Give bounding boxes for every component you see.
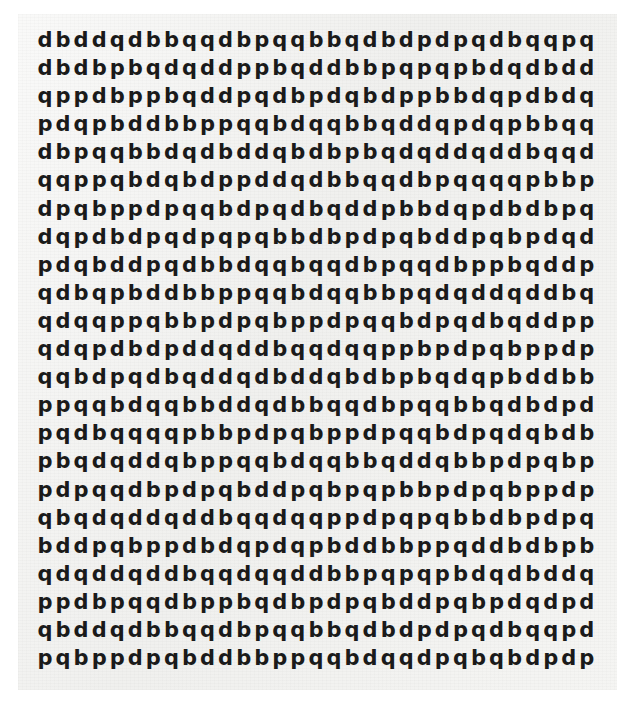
- letter-cell: d: [199, 83, 217, 109]
- letter-cell: b: [162, 83, 180, 109]
- letter-cell: d: [542, 561, 560, 587]
- letter-cell: p: [235, 280, 253, 306]
- letter-cell: b: [181, 111, 199, 137]
- letter-cell: d: [289, 196, 307, 222]
- letter-cell: p: [433, 477, 451, 503]
- letter-cell: p: [433, 336, 451, 362]
- letter-cell: p: [524, 477, 542, 503]
- letter-cell: q: [144, 392, 162, 418]
- letter-cell: q: [451, 589, 469, 615]
- letter-cell: p: [144, 224, 162, 250]
- letter-cell: d: [126, 392, 144, 418]
- letter-cell: q: [379, 139, 397, 165]
- letter-cell: b: [415, 364, 433, 390]
- letter-cell: b: [451, 505, 469, 531]
- letter-cell: b: [108, 392, 126, 418]
- letter-cell: d: [54, 336, 72, 362]
- letter-cell: d: [361, 364, 379, 390]
- letter-cell: d: [470, 533, 488, 559]
- letter-cell: d: [289, 561, 307, 587]
- letter-cell: q: [253, 111, 271, 137]
- letter-cell: d: [36, 196, 54, 222]
- letter-cell: q: [560, 111, 578, 137]
- letter-cell: b: [90, 196, 108, 222]
- letter-cell: d: [108, 336, 126, 362]
- letter-cell: q: [289, 533, 307, 559]
- letter-cell: q: [488, 224, 506, 250]
- letter-cell: b: [289, 252, 307, 278]
- letter-cell: d: [36, 224, 54, 250]
- letter-cell: q: [162, 645, 180, 671]
- letter-cell: d: [126, 252, 144, 278]
- letter-cell: b: [397, 196, 415, 222]
- letter-cell: d: [90, 561, 108, 587]
- letter-cell: p: [36, 111, 54, 137]
- letter-cell: d: [144, 196, 162, 222]
- letter-cell: q: [181, 139, 199, 165]
- letter-cell: b: [415, 336, 433, 362]
- letter-cell: d: [451, 139, 469, 165]
- letter-row: dqpdbdpqdpqpqbbdbpdpqbddpqbpdqd: [36, 224, 596, 252]
- letter-cell: d: [108, 252, 126, 278]
- letter-cell: d: [578, 589, 596, 615]
- letter-cell: q: [307, 477, 325, 503]
- letter-cell: d: [433, 196, 451, 222]
- letter-cell: q: [379, 561, 397, 587]
- letter-cell: q: [144, 308, 162, 334]
- letter-cell: q: [289, 617, 307, 643]
- letter-cell: d: [542, 252, 560, 278]
- letter-cell: b: [560, 280, 578, 306]
- letter-cell: p: [199, 448, 217, 474]
- letter-cell: d: [524, 196, 542, 222]
- letter-cell: p: [144, 645, 162, 671]
- letter-cell: b: [54, 617, 72, 643]
- letter-cell: q: [235, 505, 253, 531]
- letter-cell: p: [235, 83, 253, 109]
- letter-cell: p: [542, 645, 560, 671]
- letter-cell: p: [217, 167, 235, 193]
- letter-cell: p: [90, 645, 108, 671]
- letter-cell: p: [488, 589, 506, 615]
- letter-cell: p: [307, 83, 325, 109]
- letter-cell: q: [235, 448, 253, 474]
- letter-cell: d: [90, 505, 108, 531]
- letter-cell: q: [36, 336, 54, 362]
- letter-cell: p: [108, 364, 126, 390]
- letter-cell: q: [72, 505, 90, 531]
- letter-cell: q: [108, 139, 126, 165]
- letter-cell: b: [506, 505, 524, 531]
- letter-cell: d: [108, 561, 126, 587]
- letter-cell: d: [433, 27, 451, 53]
- letter-cell: q: [325, 111, 343, 137]
- letter-cell: q: [415, 139, 433, 165]
- letter-cell: q: [36, 561, 54, 587]
- letter-cell: d: [433, 139, 451, 165]
- letter-cell: d: [560, 55, 578, 81]
- letter-cell: q: [488, 111, 506, 137]
- letter-cell: p: [72, 224, 90, 250]
- letter-cell: d: [397, 448, 415, 474]
- letter-cell: b: [524, 392, 542, 418]
- letter-cell: p: [524, 448, 542, 474]
- letter-cell: q: [162, 392, 180, 418]
- letter-cell: q: [343, 392, 361, 418]
- letter-cell: d: [144, 364, 162, 390]
- letter-cell: p: [144, 252, 162, 278]
- letter-cell: b: [126, 336, 144, 362]
- letter-cell: d: [90, 448, 108, 474]
- letter-cell: p: [307, 308, 325, 334]
- letter-cell: p: [433, 308, 451, 334]
- letter-cell: b: [506, 336, 524, 362]
- letter-cell: q: [307, 645, 325, 671]
- letter-cell: q: [415, 252, 433, 278]
- letter-cell: d: [560, 252, 578, 278]
- letter-cell: q: [217, 561, 235, 587]
- letter-cell: d: [181, 336, 199, 362]
- letter-row: pqbppdpqbddbbppqqbdqqdpqbqbdpdp: [36, 645, 596, 673]
- letter-cell: d: [181, 533, 199, 559]
- letter-cell: d: [361, 224, 379, 250]
- letter-cell: q: [90, 139, 108, 165]
- letter-cell: b: [162, 308, 180, 334]
- letter-cell: d: [542, 224, 560, 250]
- letter-row: dbddqdbbqqdbpqqbbqdbdpdpqdbqqpq: [36, 27, 596, 55]
